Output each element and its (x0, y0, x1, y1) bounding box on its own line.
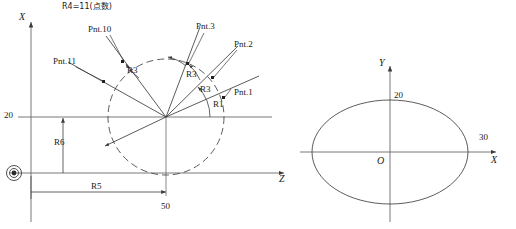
left-y-tick-20: 20 (4, 111, 13, 120)
radial-spokes (68, 27, 259, 146)
angle-label-r3-b: R3 (186, 70, 197, 79)
dim-label-r6: R6 (54, 138, 65, 147)
figure-canvas: R4=11(点数) X Z 20 50 R6 R5 R1 R3 R3 R3 Pn… (0, 0, 516, 229)
angle-label-r3-a: R3 (200, 85, 211, 94)
right-x-axis-label: X (491, 155, 497, 165)
angle-label-r1: R1 (213, 100, 224, 109)
leader-pnt-3 (189, 33, 204, 63)
leader-pnt-2 (214, 50, 237, 77)
right-x-tick-30: 30 (479, 133, 488, 142)
point-label-pnt-3: Pnt.3 (196, 22, 215, 31)
point-label-pnt-2: Pnt.2 (234, 40, 253, 49)
right-origin-label: O (377, 156, 384, 166)
point-marker-pnt-3 (186, 62, 189, 65)
point-label-pnt-10: Pnt.10 (88, 25, 111, 34)
left-x-tick-50: 50 (161, 202, 170, 211)
spoke-pnt-2 (166, 46, 238, 117)
left-x-axis-label: X (19, 12, 25, 22)
dim-label-r5: R5 (91, 182, 102, 191)
spoke-lower-left (105, 117, 166, 146)
leader-lines (76, 33, 237, 97)
spoke-pnt-10 (106, 36, 166, 117)
point-marker-pnt-2 (211, 76, 214, 79)
right-y-axis-label: Y (379, 58, 385, 68)
left-z-axis-label: Z (279, 174, 285, 184)
left-diagram-group (7, 22, 285, 222)
point-marker-pnt-10 (121, 60, 124, 63)
point-label-pnt-1: Pnt.1 (234, 88, 253, 97)
right-y-tick-20: 20 (394, 91, 403, 100)
diagram-vector-layer (0, 0, 516, 229)
angle-label-r3-c: R3 (127, 66, 138, 75)
title-note: R4=11(点数) (62, 3, 112, 11)
point-label-pnt-11: Pnt.11 (53, 57, 76, 66)
leader-pnt-11 (76, 67, 103, 81)
leader-pnt-10 (110, 35, 123, 60)
